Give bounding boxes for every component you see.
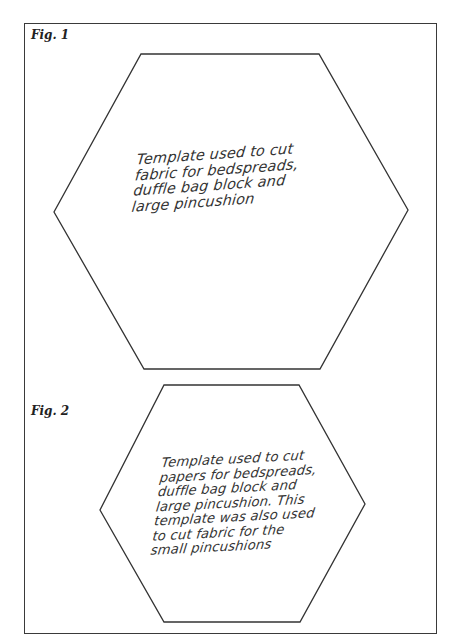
figure-1-label: Fig. 1 (31, 28, 69, 42)
figure-2-label: Fig. 2 (31, 404, 69, 418)
figure-2-caption: Template used to cut papers for bedsprea… (150, 447, 332, 558)
hexagon-template-fig1 (54, 54, 408, 369)
